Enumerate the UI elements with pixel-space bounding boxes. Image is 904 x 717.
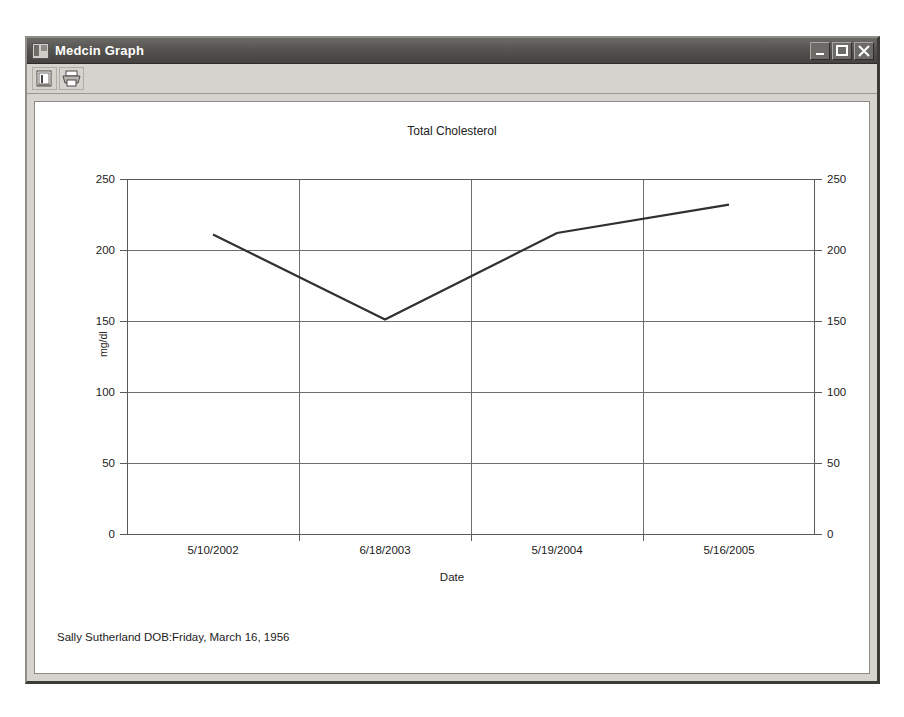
y-tick-label-left: 200 <box>96 244 115 256</box>
y-tick-mark-left <box>120 321 127 322</box>
y-tick-label-left: 250 <box>96 173 115 185</box>
y-tick-label-right: 150 <box>827 315 846 327</box>
y-tick-mark-right <box>815 463 822 464</box>
x-axis-title: Date <box>35 571 869 583</box>
graph-view-button[interactable] <box>32 67 57 90</box>
print-button[interactable] <box>59 67 84 90</box>
chart-panel: Total Cholesterol mg/dl 0050501001001501… <box>34 101 870 674</box>
y-tick-label-left: 50 <box>102 457 115 469</box>
toolbar <box>27 64 877 94</box>
y-tick-label-left: 150 <box>96 315 115 327</box>
screen: Medcin Graph <box>0 0 904 717</box>
medcin-graph-window: Medcin Graph <box>25 36 880 684</box>
x-tick-mark <box>471 534 472 541</box>
y-tick-mark-left <box>120 463 127 464</box>
y-tick-label-right: 0 <box>827 528 833 540</box>
y-tick-mark-right <box>815 179 822 180</box>
plot-area: 005050100100150150200200250250 5/10/2002… <box>127 179 815 534</box>
y-tick-mark-left <box>120 250 127 251</box>
app-icon <box>32 43 49 59</box>
chart-title: Total Cholesterol <box>35 124 869 138</box>
series-line-total-cholesterol <box>127 179 815 534</box>
y-tick-mark-right <box>815 392 822 393</box>
x-tick-label: 5/19/2004 <box>531 544 582 556</box>
y-tick-mark-right <box>815 250 822 251</box>
x-tick-label: 5/16/2005 <box>703 544 754 556</box>
y-tick-mark-left <box>120 534 127 535</box>
y-axis-title: mg/dl <box>97 331 109 357</box>
y-tick-label-right: 250 <box>827 173 846 185</box>
y-tick-label-right: 200 <box>827 244 846 256</box>
patient-info: Sally Sutherland DOB:Friday, March 16, 1… <box>57 631 289 643</box>
y-tick-label-left: 100 <box>96 386 115 398</box>
y-tick-mark-left <box>120 179 127 180</box>
minimize-button[interactable] <box>810 42 830 60</box>
y-tick-mark-right <box>815 534 822 535</box>
y-tick-label-right: 50 <box>827 457 840 469</box>
close-icon <box>855 43 873 59</box>
title-bar: Medcin Graph <box>27 38 877 64</box>
graph-view-icon <box>33 68 56 89</box>
window-controls <box>810 42 874 60</box>
window-title: Medcin Graph <box>55 43 144 58</box>
x-tick-label: 5/10/2002 <box>187 544 238 556</box>
client-area: Total Cholesterol mg/dl 0050501001001501… <box>27 95 877 681</box>
x-tick-label: 6/18/2003 <box>359 544 410 556</box>
maximize-icon <box>833 43 851 59</box>
x-tick-mark <box>299 534 300 541</box>
y-tick-label-right: 100 <box>827 386 846 398</box>
minimize-icon <box>811 43 829 59</box>
y-tick-mark-right <box>815 321 822 322</box>
y-tick-label-left: 0 <box>109 528 115 540</box>
x-tick-mark <box>643 534 644 541</box>
y-tick-mark-left <box>120 392 127 393</box>
maximize-button[interactable] <box>832 42 852 60</box>
printer-icon <box>60 68 83 89</box>
close-button[interactable] <box>854 42 874 60</box>
